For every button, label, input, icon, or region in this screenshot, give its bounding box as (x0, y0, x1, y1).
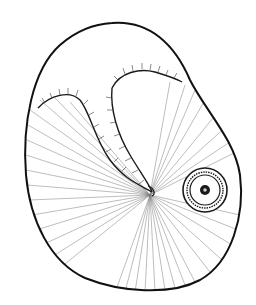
hilum-mark (183, 168, 227, 212)
seed-illustration (0, 0, 256, 305)
